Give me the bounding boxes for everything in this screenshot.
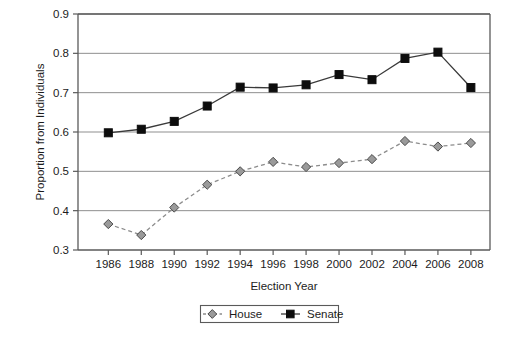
data-point-senate-1998 [302, 81, 310, 89]
chart-figure: 0.30.40.50.60.70.80.9 198619881990199219… [0, 0, 520, 338]
data-point-senate-1988 [137, 125, 145, 133]
x-tick-label: 1988 [128, 258, 154, 270]
y-tick-label: 0.3 [53, 244, 69, 256]
x-tick-label: 2000 [326, 258, 352, 270]
x-tick-label: 1996 [260, 258, 286, 270]
x-axis: 1986198819901992199419961998200020022004… [96, 250, 484, 270]
chart-legend: HouseSenate [201, 306, 344, 323]
x-tick-label: 2004 [392, 258, 418, 270]
data-point-senate-1990 [170, 117, 178, 125]
data-point-senate-2008 [467, 84, 475, 92]
y-tick-label: 0.6 [53, 126, 69, 138]
x-tick-label: 1986 [96, 258, 122, 270]
x-tick-label: 1992 [194, 258, 220, 270]
x-tick-label: 2008 [458, 258, 484, 270]
y-tick-label: 0.9 [53, 8, 69, 20]
legend-label-house: House [229, 308, 262, 320]
data-point-senate-1992 [203, 102, 211, 110]
data-point-senate-2000 [335, 71, 343, 79]
data-point-senate-1986 [104, 129, 112, 137]
y-axis: 0.30.40.50.60.70.80.9 [53, 8, 78, 256]
x-tick-label: 1998 [293, 258, 319, 270]
data-point-senate-2002 [368, 76, 376, 84]
data-point-senate-1994 [236, 83, 244, 91]
x-tick-label: 2006 [425, 258, 451, 270]
y-tick-label: 0.5 [53, 165, 69, 177]
x-tick-label: 1994 [227, 258, 253, 270]
x-axis-title: Election Year [250, 280, 317, 292]
y-axis-title: Proportion from Individuals [34, 63, 46, 200]
y-tick-label: 0.4 [53, 205, 70, 217]
x-tick-label: 1990 [161, 258, 187, 270]
data-point-senate-2004 [401, 54, 409, 62]
line-chart: 0.30.40.50.60.70.80.9 198619881990199219… [0, 0, 520, 338]
x-tick-label: 2002 [359, 258, 385, 270]
y-tick-label: 0.7 [53, 87, 69, 99]
legend-marker-senate [287, 310, 295, 318]
y-tick-label: 0.8 [53, 47, 69, 59]
data-point-senate-2006 [434, 48, 442, 56]
legend-label-senate: Senate [307, 308, 343, 320]
data-point-senate-1996 [269, 84, 277, 92]
